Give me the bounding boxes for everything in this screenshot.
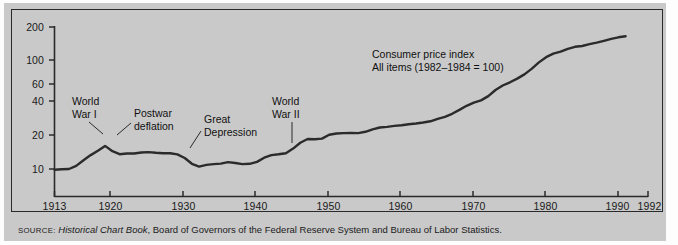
x-tick-label-1970: 1970 [452, 200, 495, 212]
annotation-world-war-i-line2: War I [72, 108, 99, 121]
page-margin-right [666, 0, 678, 245]
leader-great-depression [190, 131, 201, 148]
annotation-great-depression-line1: Great [204, 113, 257, 126]
x-tick-label-1950: 1950 [307, 200, 350, 212]
x-tick-label-1930: 1930 [162, 200, 205, 212]
y-tick-label-200: 200 [18, 21, 44, 33]
y-tick-label-100: 100 [18, 54, 44, 66]
annotation-world-war-ii-line1: World [272, 95, 300, 108]
source-publication-title: Historical Chart Book [58, 224, 147, 235]
annotation-postwar-deflation-line1: Postwar [134, 107, 174, 120]
annotation-world-war-ii-line2: War II [272, 108, 300, 121]
annotation-world-war-i-line1: World [72, 95, 99, 108]
cpi-chart-figure: 200 100 60 40 20 10 1913 1920 1930 1940 … [0, 0, 678, 245]
annotation-leader-lines [89, 122, 292, 148]
annotation-postwar-deflation: Postwar deflation [134, 107, 174, 132]
source-label: SOURCE: [18, 226, 56, 235]
y-tick-label-20: 20 [18, 129, 44, 141]
annotation-great-depression: Great Depression [204, 113, 257, 138]
series-title-line2: All items (1982–1984 = 100) [372, 61, 504, 74]
annotation-world-war-i: World War I [72, 95, 99, 120]
page-margin-top [0, 0, 678, 3]
x-tick-label-1960: 1960 [379, 200, 422, 212]
leader-postwar-deflation [117, 123, 131, 135]
x-tick-label-1920: 1920 [89, 200, 132, 212]
annotation-postwar-deflation-line2: deflation [134, 120, 174, 133]
annotation-world-war-ii: World War II [272, 95, 300, 120]
x-tick-label-1992: 1992 [628, 200, 671, 212]
y-tick-label-10: 10 [18, 163, 44, 175]
cpi-series-line [55, 36, 626, 170]
series-title-line1: Consumer price index [372, 48, 504, 61]
y-tick-label-40: 40 [18, 95, 44, 107]
source-rest: , Board of Governors of the Federal Rese… [148, 224, 502, 235]
page-margin-left [0, 0, 4, 245]
x-tick-label-1980: 1980 [524, 200, 567, 212]
series-title: Consumer price index All items (1982–198… [372, 48, 504, 74]
annotation-great-depression-line2: Depression [204, 126, 257, 139]
y-tick-label-60: 60 [18, 78, 44, 90]
page-margin-bottom [0, 241, 678, 245]
x-tick-label-1940: 1940 [234, 200, 277, 212]
leader-world-war-i [89, 122, 103, 134]
x-tick-label-1913: 1913 [33, 200, 76, 212]
source-note: SOURCE: Historical Chart Book, Board of … [18, 224, 502, 235]
